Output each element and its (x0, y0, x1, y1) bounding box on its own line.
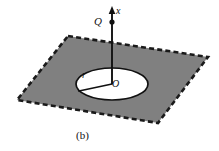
figure-caption: (b) (76, 129, 89, 141)
origin-label-o: O (112, 79, 119, 89)
point-charge-marker (109, 19, 114, 24)
charge-label-q: Q (94, 16, 102, 27)
physics-figure: x Q r O (b) (0, 0, 219, 151)
figure-canvas (0, 0, 219, 151)
radius-label-r: r (82, 70, 86, 80)
x-axis-arrowhead (109, 6, 116, 14)
axis-label-x: x (116, 6, 120, 16)
